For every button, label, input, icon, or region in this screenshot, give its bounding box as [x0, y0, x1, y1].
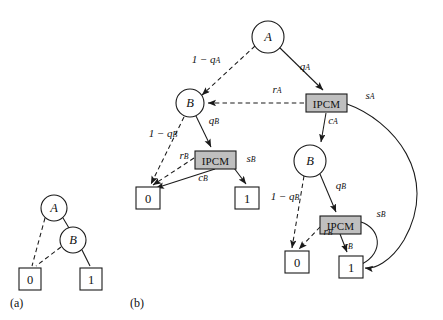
edge-label-qB-right: qB: [336, 179, 347, 191]
panel-a: A B 0 1 (a): [10, 195, 102, 310]
edge-label-rA: rA: [272, 83, 281, 95]
edge-a-B-to-leaf1: [82, 250, 90, 266]
edge-label-rB-left: rB: [179, 149, 188, 161]
edge-label-one-minus-qA: 1 − qA: [192, 53, 221, 65]
edge-b-ipcmA-to-Bright: [321, 113, 326, 142]
panel-b-caption: (b): [130, 296, 144, 310]
edge-a-A-to-leaf0: [32, 218, 45, 266]
edge-b-ipcmBright-to-leaf0right: [299, 227, 320, 249]
edge-label-qA: qA: [300, 60, 311, 72]
node-a-B-label: B: [69, 233, 77, 247]
edge-label-one-minus-qB-left: 1 − qB: [149, 127, 178, 139]
leaf-b-one-right-label: 1: [348, 261, 354, 275]
tree-diagram: A B 0 1 (a): [0, 0, 443, 320]
edge-b-ipcmBleft-to-leaf1left: [234, 168, 246, 184]
edge-b-Bright-to-leaf0right: [292, 176, 304, 248]
leaf-b-zero-right-label: 0: [294, 256, 300, 270]
node-b-B-left-label: B: [186, 96, 194, 110]
edge-label-cB-right: cB: [343, 239, 353, 251]
edge-label-sB-left: sB: [246, 152, 255, 164]
edge-label-one-minus-qB-right: 1 − qB: [271, 190, 300, 202]
node-b-B-right-label: B: [306, 154, 314, 168]
edge-label-sB-right: sB: [376, 207, 385, 219]
edge-label-qB-left: qB: [209, 114, 220, 126]
node-a-A-label: A: [49, 201, 58, 215]
leaf-a-one-label: 1: [88, 273, 94, 287]
node-b-ipcm-B-left-label: IPCM: [202, 155, 230, 167]
node-b-A-label: A: [263, 30, 272, 44]
edge-b-Bright-to-ipcmBright: [320, 174, 336, 212]
edge-a-B-to-leaf0: [36, 247, 61, 266]
edge-a-A-to-B: [63, 218, 69, 228]
figure-container: A B 0 1 (a): [0, 0, 443, 320]
panel-a-caption: (a): [10, 296, 23, 310]
leaf-b-zero-left-label: 0: [145, 192, 151, 206]
edge-b-ipcmA-to-leaf1right: [347, 104, 417, 268]
node-b-ipcm-A-label: IPCM: [313, 98, 341, 110]
edge-b-ipcmBleft-to-leaf0left-dashed: [153, 158, 194, 185]
edge-label-sA: sA: [365, 89, 374, 101]
leaf-b-one-left-label: 1: [244, 192, 250, 206]
edge-label-cA: cA: [328, 114, 338, 126]
leaf-a-zero-label: 0: [27, 273, 33, 287]
panel-b: A B IPCM IPCM 0 1 B IPCM 0 1 1 − qA: [130, 21, 417, 310]
